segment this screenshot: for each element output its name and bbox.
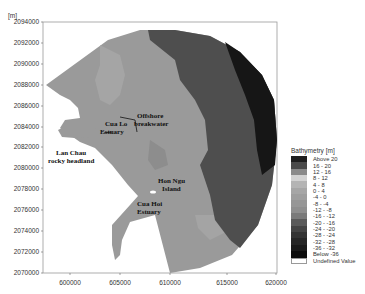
bathymetry-legend: Bathymetry [m] Above 2016 - 2012 - 168 -… xyxy=(291,147,365,264)
legend-label: Below -36 xyxy=(313,251,339,257)
offshore-breakwater-label: Offshore xyxy=(137,112,163,120)
legend-label: 4 - 8 xyxy=(313,182,325,188)
lan-chau-label: rocky headland xyxy=(48,157,94,165)
legend-label: -20 - -16 xyxy=(313,220,335,226)
lan-chau-label: Lan Chau xyxy=(56,149,86,157)
legend-label: Undefined Value xyxy=(313,258,355,264)
legend-label: -28 - -24 xyxy=(313,232,335,238)
cua-hoi-label: Estuary xyxy=(137,208,161,216)
legend-label: -4 - 0 xyxy=(313,194,327,200)
legend-label: -8 - -4 xyxy=(313,201,328,207)
legend-item: Undefined Value xyxy=(291,258,365,264)
offshore-breakwater-label: breakwater xyxy=(134,120,168,128)
legend-label: -32 - -28 xyxy=(313,239,335,245)
cua-lo-label: Estuary xyxy=(100,128,124,136)
legend-title: Bathymetry [m] xyxy=(291,147,365,154)
legend-label: 16 - 20 xyxy=(313,163,331,169)
legend-label: 0 - 4 xyxy=(313,188,325,194)
hon-ngu-label: Island xyxy=(162,185,181,193)
legend-label: -36 - -32 xyxy=(313,245,335,251)
bathymetry-map-figure: [m] 2094000 2092000 2090000 2088000 2086… xyxy=(0,0,365,294)
cua-hoi-label: Cua Hoi xyxy=(137,200,162,208)
hon-ngu-island xyxy=(150,190,156,193)
legend-label: Above 20 xyxy=(313,156,338,162)
cua-lo-label: Cua Lo xyxy=(105,120,128,128)
legend-label: -16 - -12 xyxy=(313,213,335,219)
hon-ngu-label: Hon Ngu xyxy=(158,177,185,185)
legend-label: -12 - -8 xyxy=(313,207,332,213)
legend-label: -24 - -20 xyxy=(313,226,335,232)
legend-label: 12 - 16 xyxy=(313,169,331,175)
legend-swatch xyxy=(291,258,307,264)
legend-label: 8 - 12 xyxy=(313,175,328,181)
